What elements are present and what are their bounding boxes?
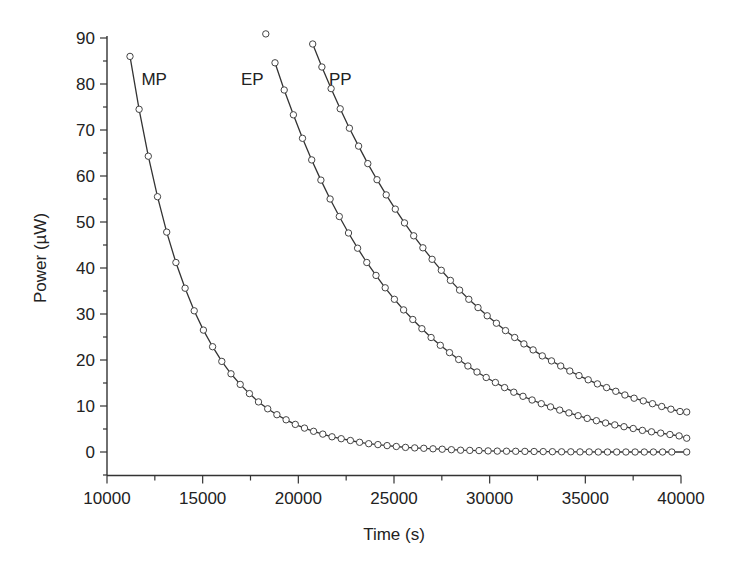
data-point-marker — [557, 407, 563, 413]
series-label-ep: EP — [241, 70, 264, 89]
data-point-marker — [438, 267, 444, 273]
data-point-marker — [219, 358, 225, 364]
data-point-marker — [301, 425, 307, 431]
data-point-marker — [439, 446, 445, 452]
data-point-marker — [237, 381, 243, 387]
data-point-marker — [337, 106, 343, 112]
data-point-marker — [669, 449, 675, 455]
data-point-marker — [164, 229, 170, 235]
data-point-marker — [373, 272, 379, 278]
data-point-marker — [577, 449, 583, 455]
data-point-marker — [309, 157, 315, 163]
series-label-mp: MP — [141, 70, 167, 89]
data-point-marker — [263, 31, 269, 37]
data-point-marker — [521, 341, 527, 347]
fit-line — [130, 56, 687, 452]
x-tick-label: 25000 — [370, 489, 417, 508]
data-point-marker — [520, 393, 526, 399]
data-point-marker — [354, 245, 360, 251]
data-point-marker — [612, 422, 618, 428]
data-point-marker — [493, 320, 499, 326]
data-point-marker — [484, 313, 490, 319]
data-point-marker — [613, 388, 619, 394]
data-point-marker — [474, 369, 480, 375]
y-tick-label: 0 — [86, 443, 95, 462]
data-point-marker — [494, 448, 500, 454]
data-point-marker — [412, 445, 418, 451]
data-point-marker — [614, 449, 620, 455]
data-point-marker — [548, 358, 554, 364]
data-point-marker — [467, 447, 473, 453]
data-point-marker — [375, 441, 381, 447]
data-point-marker — [457, 447, 463, 453]
data-point-marker — [558, 449, 564, 455]
data-point-marker — [566, 410, 572, 416]
data-point-marker — [200, 327, 206, 333]
y-tick-label: 60 — [76, 167, 95, 186]
data-point-marker — [338, 436, 344, 442]
data-point-marker — [530, 347, 536, 353]
data-point-marker — [173, 259, 179, 265]
data-point-marker — [447, 277, 453, 283]
data-point-marker — [154, 194, 160, 200]
data-point-marker — [347, 437, 353, 443]
y-tick-label: 50 — [76, 213, 95, 232]
data-point-marker — [540, 448, 546, 454]
series-labels: MPEPPP — [141, 70, 351, 89]
data-point-marker — [393, 443, 399, 449]
data-point-marker — [639, 427, 645, 433]
series-mp — [127, 53, 690, 455]
data-point-marker — [501, 384, 507, 390]
data-point-marker — [558, 363, 564, 369]
x-axis-title: Time (s) — [363, 525, 425, 544]
fit-line — [313, 44, 687, 412]
data-point-marker — [410, 316, 416, 322]
data-point-marker — [446, 349, 452, 355]
data-point-marker — [584, 415, 590, 421]
data-point-marker — [641, 449, 647, 455]
x-tick-label: 20000 — [275, 489, 322, 508]
data-point-marker — [511, 389, 517, 395]
data-point-marker — [476, 447, 482, 453]
data-point-marker — [292, 421, 298, 427]
data-point-marker — [677, 408, 683, 414]
data-point-marker — [649, 401, 655, 407]
data-point-marker — [513, 448, 519, 454]
y-tick-label: 40 — [76, 259, 95, 278]
data-point-marker — [383, 192, 389, 198]
data-point-marker — [345, 230, 351, 236]
data-point-marker — [659, 403, 665, 409]
data-point-marker — [648, 429, 654, 435]
data-point-marker — [392, 206, 398, 212]
data-point-marker — [310, 41, 316, 47]
data-point-marker — [684, 435, 690, 441]
y-tick-label: 90 — [76, 29, 95, 48]
data-point-marker — [420, 245, 426, 251]
data-point-marker — [602, 420, 608, 426]
data-point-marker — [547, 404, 553, 410]
data-point-marker — [182, 285, 188, 291]
data-point-marker — [327, 196, 333, 202]
data-point-marker — [336, 213, 342, 219]
data-point-marker — [274, 412, 280, 418]
data-point-marker — [640, 398, 646, 404]
data-point-marker — [283, 417, 289, 423]
data-point-marker — [531, 448, 537, 454]
data-point-marker — [512, 334, 518, 340]
x-tick-label: 40000 — [657, 489, 704, 508]
data-point-marker — [684, 409, 690, 415]
data-point-marker — [475, 304, 481, 310]
data-point-marker — [466, 296, 472, 302]
data-point-marker — [136, 106, 142, 112]
y-tick-label: 30 — [76, 305, 95, 324]
x-tick-label: 10000 — [83, 489, 130, 508]
data-point-marker — [502, 327, 508, 333]
power-vs-time-chart: 0102030405060708090100001500020000250003… — [0, 0, 738, 573]
data-point-marker — [329, 434, 335, 440]
data-point-marker — [401, 220, 407, 226]
data-point-marker — [255, 399, 261, 405]
axes: 0102030405060708090100001500020000250003… — [76, 29, 705, 508]
data-point-marker — [290, 112, 296, 118]
data-point-marker — [621, 424, 627, 430]
y-tick-label: 20 — [76, 351, 95, 370]
